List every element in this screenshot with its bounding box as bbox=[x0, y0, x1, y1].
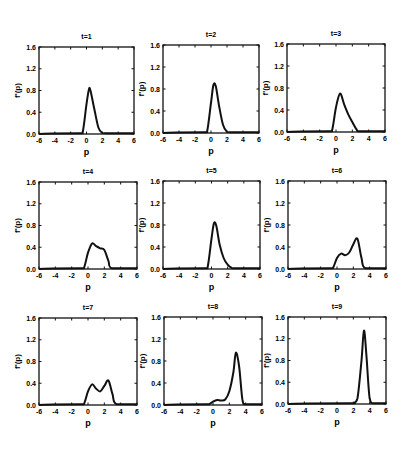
subplot-t8: t=8-6-4-202460.00.40.81.21.6f'(p)p bbox=[138, 303, 264, 428]
x-tick-label: 2 bbox=[351, 407, 355, 414]
y-axis-label: f'(p) bbox=[262, 353, 271, 368]
y-tick-label: 0.8 bbox=[26, 87, 36, 94]
density-curve bbox=[163, 83, 259, 133]
x-tick-label: -6 bbox=[36, 272, 42, 279]
panel-title: t=7 bbox=[83, 304, 93, 311]
x-tick-label: -4 bbox=[300, 135, 306, 142]
y-tick-label: 1.6 bbox=[275, 178, 285, 185]
x-tick-label: 6 bbox=[260, 408, 264, 415]
y-tick-label: 1.2 bbox=[150, 200, 160, 207]
x-tick-label: 2 bbox=[351, 272, 355, 279]
axes-frame bbox=[39, 47, 134, 134]
y-axis-label: f'(p) bbox=[13, 354, 22, 369]
x-tick-label: 4 bbox=[119, 408, 123, 415]
x-tick-label: -6 bbox=[284, 135, 290, 142]
x-axis-label: p bbox=[84, 147, 90, 157]
x-tick-label: 2 bbox=[227, 408, 231, 415]
axes-frame bbox=[163, 45, 259, 133]
x-tick-label: 2 bbox=[225, 136, 229, 143]
panel-title: t=2 bbox=[206, 31, 216, 38]
y-tick-label: 0.8 bbox=[150, 222, 160, 229]
axes-frame bbox=[288, 181, 386, 269]
y-tick-label: 0.4 bbox=[274, 107, 284, 114]
x-tick-label: 6 bbox=[257, 136, 261, 143]
y-tick-label: 0.8 bbox=[26, 222, 36, 229]
x-tick-label: 4 bbox=[241, 136, 245, 143]
x-tick-label: 4 bbox=[119, 272, 123, 279]
x-tick-label: -6 bbox=[36, 408, 42, 415]
x-tick-label: 4 bbox=[244, 408, 248, 415]
x-axis-label: p bbox=[209, 282, 215, 292]
x-tick-label: -4 bbox=[52, 408, 58, 415]
x-tick-label: -2 bbox=[192, 272, 198, 279]
panel-title: t=9 bbox=[332, 303, 342, 310]
y-tick-label: 0.8 bbox=[26, 358, 36, 365]
panel-title: t=8 bbox=[208, 303, 218, 310]
x-axis-label: p bbox=[85, 282, 91, 292]
x-tick-label: 0 bbox=[335, 272, 339, 279]
y-tick-label: 0.4 bbox=[26, 109, 36, 116]
x-tick-label: -6 bbox=[160, 272, 166, 279]
x-tick-label: 4 bbox=[242, 272, 246, 279]
x-tick-label: -4 bbox=[176, 136, 182, 143]
y-tick-label: 0.0 bbox=[26, 131, 36, 138]
x-tick-label: -4 bbox=[301, 272, 307, 279]
x-tick-label: 0 bbox=[86, 272, 90, 279]
x-axis-label: p bbox=[85, 418, 91, 428]
x-axis-label: p bbox=[210, 418, 216, 428]
x-tick-label: 6 bbox=[135, 272, 139, 279]
x-tick-label: -4 bbox=[301, 407, 307, 414]
x-tick-label: -6 bbox=[36, 137, 42, 144]
x-tick-label: -2 bbox=[69, 408, 75, 415]
y-axis-label: f'(p) bbox=[261, 80, 270, 95]
x-axis-label: p bbox=[208, 146, 214, 156]
y-tick-label: 1.2 bbox=[150, 64, 160, 71]
panel-title: t=6 bbox=[332, 167, 342, 174]
subplot-t2: t=2-6-4-202460.00.40.81.21.6f'(p)p bbox=[137, 31, 261, 156]
y-tick-label: 0.8 bbox=[274, 85, 284, 92]
x-tick-label: 6 bbox=[383, 135, 387, 142]
y-tick-label: 0.0 bbox=[275, 266, 285, 273]
y-tick-label: 0.8 bbox=[275, 222, 285, 229]
density-curve bbox=[164, 353, 262, 405]
y-tick-label: 1.2 bbox=[275, 200, 285, 207]
x-tick-label: 0 bbox=[334, 135, 338, 142]
x-tick-label: 2 bbox=[350, 135, 354, 142]
y-tick-label: 0.0 bbox=[150, 266, 160, 273]
figure-grid: t=1-6-4-202460.00.40.81.21.6f'(p)pt=2-6-… bbox=[0, 0, 407, 452]
axes-frame bbox=[287, 44, 385, 132]
y-tick-label: 1.6 bbox=[26, 179, 36, 186]
x-tick-label: -6 bbox=[285, 407, 291, 414]
x-tick-label: 0 bbox=[210, 272, 214, 279]
x-tick-label: 6 bbox=[384, 407, 388, 414]
x-tick-label: -4 bbox=[52, 137, 58, 144]
x-tick-label: -2 bbox=[318, 272, 324, 279]
density-curve bbox=[288, 331, 386, 404]
y-tick-label: 0.8 bbox=[150, 86, 160, 93]
panel-title: t=1 bbox=[81, 33, 91, 40]
y-tick-label: 0.0 bbox=[274, 129, 284, 136]
y-tick-label: 0.4 bbox=[150, 108, 160, 115]
y-tick-label: 1.6 bbox=[26, 44, 36, 51]
y-tick-label: 0.8 bbox=[151, 358, 161, 365]
x-tick-label: -4 bbox=[176, 272, 182, 279]
axes-frame bbox=[164, 317, 262, 405]
x-tick-label: 4 bbox=[367, 135, 371, 142]
density-curve bbox=[287, 93, 385, 132]
y-tick-label: 1.2 bbox=[26, 200, 36, 207]
y-tick-label: 1.2 bbox=[26, 336, 36, 343]
x-tick-label: -2 bbox=[192, 136, 198, 143]
x-axis-label: p bbox=[334, 417, 340, 427]
x-tick-label: 0 bbox=[86, 408, 90, 415]
panel-title: t=4 bbox=[83, 168, 93, 175]
x-tick-label: -2 bbox=[318, 407, 324, 414]
y-tick-label: 0.4 bbox=[275, 379, 285, 386]
x-tick-label: 6 bbox=[135, 408, 139, 415]
y-tick-label: 0.0 bbox=[26, 402, 36, 409]
x-axis-label: p bbox=[333, 145, 339, 155]
x-tick-label: 0 bbox=[211, 408, 215, 415]
y-tick-label: 1.2 bbox=[275, 335, 285, 342]
x-tick-label: 4 bbox=[116, 137, 120, 144]
x-tick-label: 4 bbox=[368, 272, 372, 279]
y-tick-label: 0.4 bbox=[26, 244, 36, 251]
